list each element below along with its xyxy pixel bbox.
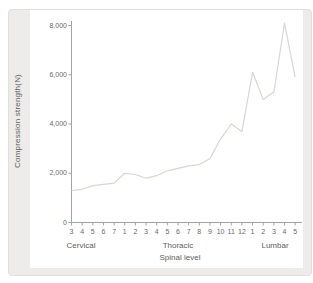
y-tick-label: 8,000 (33, 22, 67, 30)
y-axis-title: Compression strength(N) (13, 74, 22, 168)
compression-strength-line (72, 23, 296, 191)
y-tick-label: 4,000 (33, 120, 67, 128)
y-tick-label: 2,000 (33, 169, 67, 177)
y-tick-label: 0 (33, 219, 67, 227)
region-label-thoracic: Thoracic (143, 241, 213, 250)
region-label-lumbar: Lumbar (240, 241, 310, 250)
y-tick-label: 6,000 (33, 71, 67, 79)
x-tick-label: 5 (287, 228, 303, 236)
chart-figure: Compression strength(N) 02,0004,0006,000… (0, 0, 313, 283)
region-label-cervical: Cervical (46, 241, 116, 250)
x-axis-title: Spinal level (135, 253, 225, 262)
